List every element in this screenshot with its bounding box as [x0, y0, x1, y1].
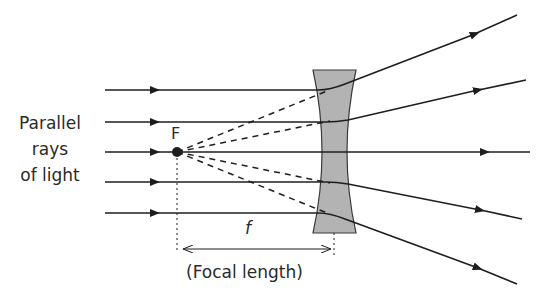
focal-length-label: (Focal length)	[186, 262, 303, 282]
focal-point-dot	[172, 147, 182, 157]
refracted-rays	[318, 15, 530, 284]
focal-point-label: F	[171, 124, 180, 143]
label-line-3: of light	[0, 162, 100, 188]
label-line-2: rays	[0, 136, 100, 162]
label-line-1: Parallel	[0, 110, 100, 136]
incoming-rays	[105, 90, 330, 213]
parallel-rays-label: Parallel rays of light	[0, 110, 100, 188]
focal-symbol-label: f	[245, 218, 251, 238]
